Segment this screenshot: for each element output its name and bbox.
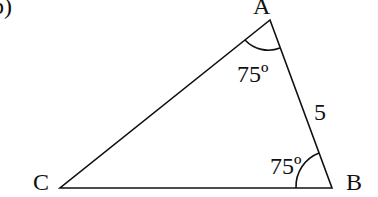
triangle-diagram: b) A B C 75º 75º 5 [0,0,378,197]
angle-label-b: 75º [270,153,302,179]
vertex-label-b: B [346,169,362,195]
side-label-ab: 5 [314,99,326,125]
angle-arc-a [245,40,280,50]
vertex-label-c: C [33,169,49,195]
angle-label-a: 75º [237,61,269,87]
part-label: b) [0,0,12,19]
vertex-label-a: A [253,0,271,19]
